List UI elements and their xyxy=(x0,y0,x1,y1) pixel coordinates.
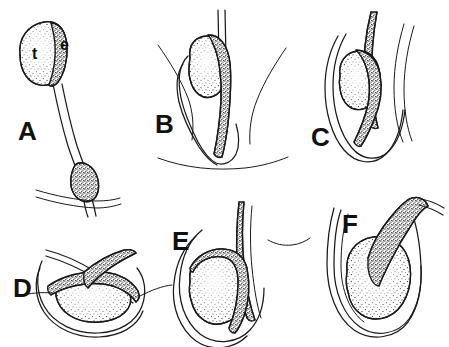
label-epididymis: e xyxy=(60,36,69,53)
label-testis: t xyxy=(32,45,38,62)
figure-root: A t e xyxy=(0,0,449,347)
testicular-descent-diagram: A t e xyxy=(0,0,449,347)
panel-letter-c: C xyxy=(311,122,330,152)
panel-letter-b: B xyxy=(155,109,174,139)
panel-letter-e: E xyxy=(172,226,189,256)
panel-letter-f: F xyxy=(342,209,358,239)
panel-letter-d: D xyxy=(13,273,32,303)
panel-letter-a: A xyxy=(18,116,37,146)
